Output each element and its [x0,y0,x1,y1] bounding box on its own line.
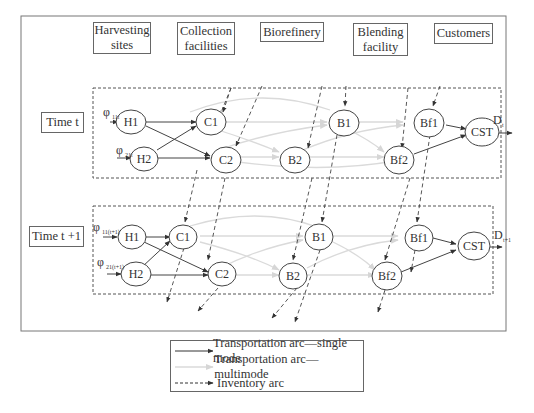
label-C2-t1: C2 [215,267,229,281]
phi-11t1: φ [93,220,100,234]
legend: Transportation arc—single mode Transport… [170,340,364,392]
nodes-t [116,109,499,174]
header-biorefinery: Biorefinery [260,22,324,42]
label-CST-t: CST [471,125,494,139]
dashed-arrow-icon [173,378,217,388]
label-C1-t: C1 [204,115,218,129]
label-B2-t: B2 [288,153,302,167]
legend-label-inventory: Inventory arc [217,376,284,391]
label-C1-t1: C1 [176,230,190,244]
header-blending-facility: Blending facility [353,23,408,56]
legend-item-multimode: Transportation arc—multimode [173,359,363,375]
label-H1-t1: H1 [125,230,140,244]
demand-t-sub: t [502,122,504,128]
phi-21t-sub: 21t [125,152,133,158]
light-arrow-icon [173,362,214,372]
phi-11t: φ [103,105,110,119]
time-t1-text: Time t +1 [32,229,81,244]
demand-t1-sub: t+1 [503,237,511,243]
phi-21t1-sub: 21(t+1) [106,264,124,271]
label-CST-t1: CST [463,239,486,253]
phi-11t-sub: 11t [112,114,120,120]
label-B1-t1: B1 [312,230,326,244]
label-Bf1-t: Bf1 [420,116,438,130]
label-H2-t: H2 [137,152,152,166]
time-t-text: Time t [46,115,79,130]
time-t1-label: Time t +1 [29,226,84,247]
phi-11t1-sub: 11(t+1) [102,229,120,236]
time-t-label: Time t [41,112,84,133]
demand-t1: D [494,228,503,242]
label-H1-t: H1 [124,115,139,129]
label-Bf2-t: Bf2 [390,153,408,167]
phi-21t1: φ [97,255,104,269]
header-collection-facilities: Collection facilities [177,22,235,55]
outer-frame [21,16,506,331]
label-C2-t: C2 [219,153,233,167]
header-customers: Customers [434,23,493,44]
phi-21t: φ [116,143,123,157]
solid-arrow-icon [173,346,213,356]
header-harvesting-sites: Harvesting sites [93,22,151,54]
legend-item-inventory: Inventory arc [173,375,284,391]
label-Bf1-t1: Bf1 [410,231,428,245]
label-B1-t: B1 [337,116,351,130]
demand-t: D [493,113,502,127]
nodes-t1 [118,224,490,290]
label-Bf2-t1: Bf2 [378,269,396,283]
label-H2-t1: H2 [129,267,144,281]
label-B2-t1: B2 [286,269,300,283]
